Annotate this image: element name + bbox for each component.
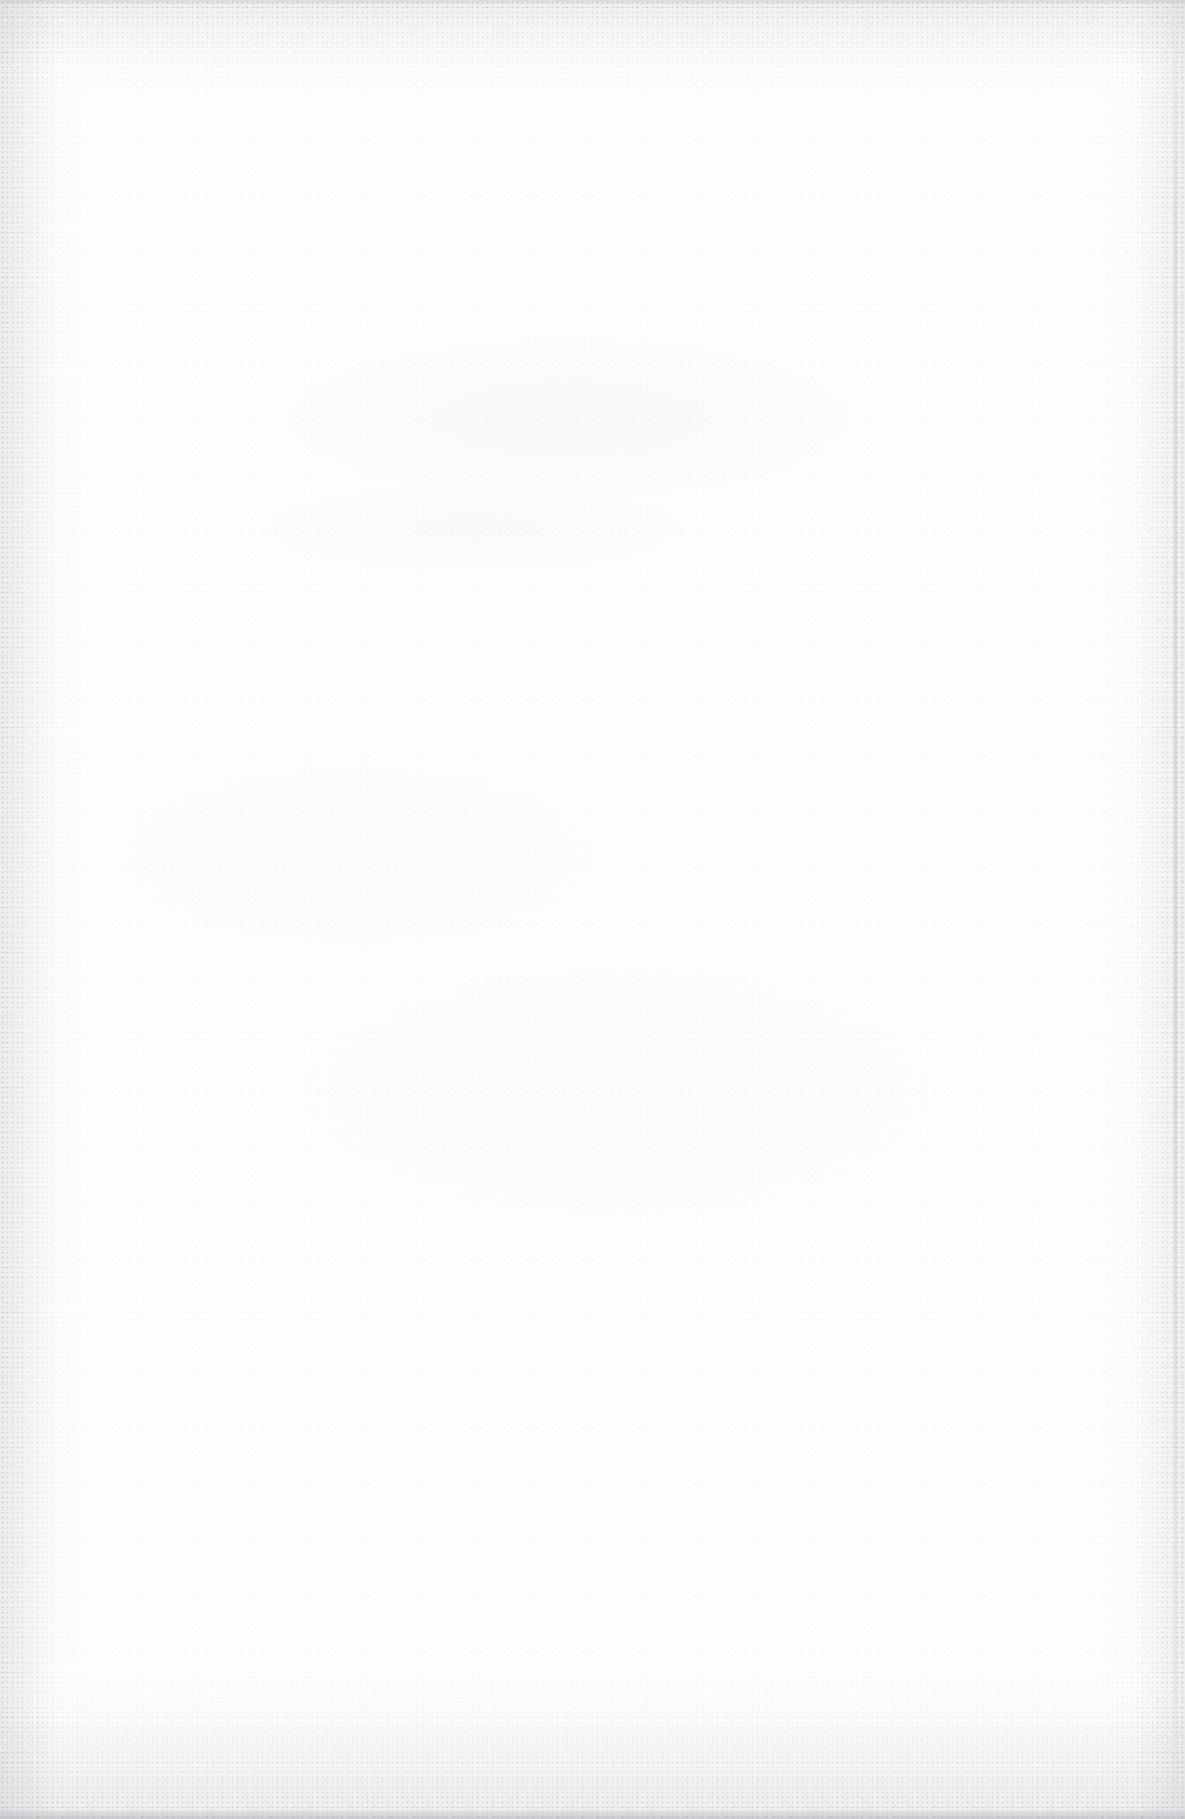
page-content-area	[0, 0, 1185, 1819]
scanned-page	[0, 0, 1185, 1819]
